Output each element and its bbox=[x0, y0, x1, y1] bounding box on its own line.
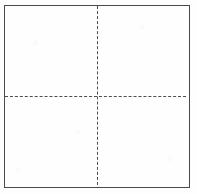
quadrant-bottom-right bbox=[98, 97, 189, 185]
horizontal-dashed-line bbox=[5, 96, 186, 97]
quadrant-top-right bbox=[98, 6, 189, 96]
figure-canvas bbox=[0, 0, 197, 194]
quadrant-bottom-left bbox=[5, 97, 97, 185]
quadrant-top-left bbox=[5, 6, 97, 96]
